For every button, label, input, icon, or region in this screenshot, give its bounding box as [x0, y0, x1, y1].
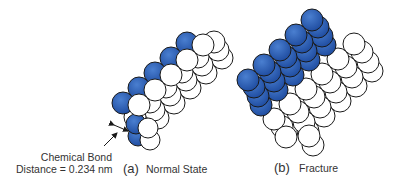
- panel-b-letter: (b): [274, 161, 290, 174]
- bond-annotation-line1: Chemical Bond: [36, 152, 112, 163]
- lattice-normal-state: [112, 31, 233, 150]
- white-lower-atoms: [138, 118, 160, 150]
- bond-distance-marker: [104, 125, 128, 146]
- panel-b-title: Fracture: [299, 163, 338, 174]
- panel-a-letter: (a): [123, 162, 139, 175]
- panel-a-title: Normal State: [146, 164, 207, 175]
- bond-annotation-line2: Distance = 0.234 nm: [16, 164, 113, 175]
- lattice-fracture: [237, 9, 383, 156]
